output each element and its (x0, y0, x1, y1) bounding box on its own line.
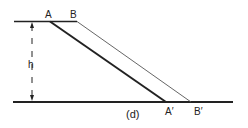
arrow-up-icon (30, 22, 34, 28)
label-a: A (45, 9, 52, 20)
line-b-b-prime (77, 22, 191, 103)
label-b-prime: B′ (194, 106, 203, 117)
diagram-canvas: A B h A′ B′ (d) (0, 0, 248, 128)
line-a-a-prime (50, 22, 166, 103)
label-a-prime: A′ (165, 106, 174, 117)
label-b: B (70, 9, 77, 20)
caption-d: (d) (126, 108, 139, 120)
label-h: h (28, 59, 34, 70)
arrow-down-icon (30, 95, 34, 101)
